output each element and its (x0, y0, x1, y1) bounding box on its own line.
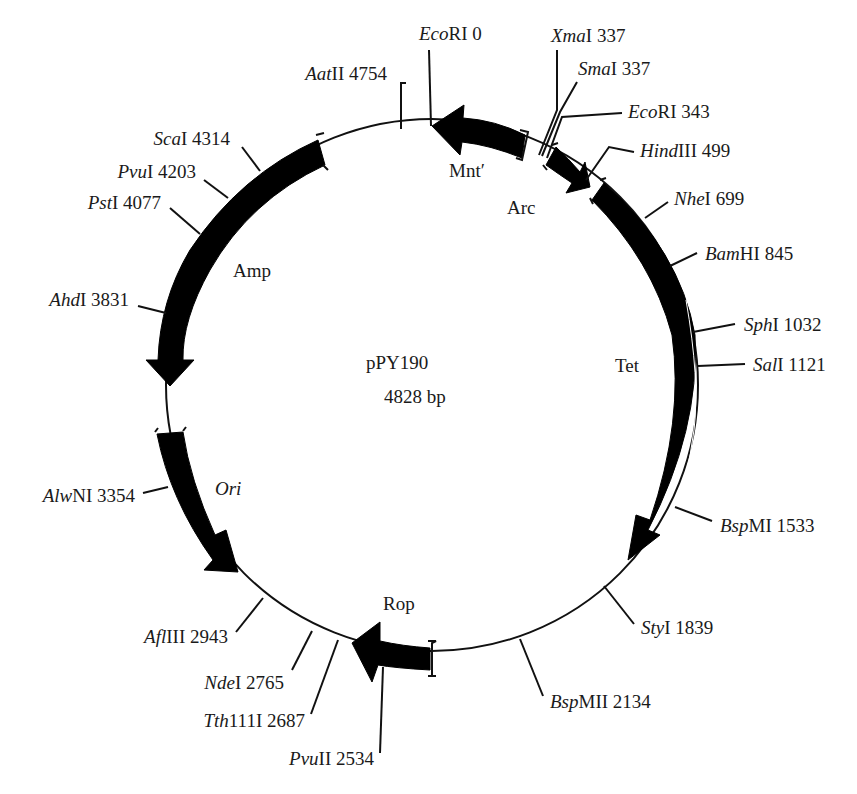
site-label-ahdi-3831: AhdI 3831 (47, 289, 129, 310)
site-label-hindiii-499: HindIII 499 (639, 140, 730, 161)
gene-label-ori: Ori (215, 478, 241, 499)
plasmid-name: pPY190 (366, 352, 428, 373)
site-label-bspmi-1533: BspMI 1533 (720, 515, 814, 536)
gene-label-tet: Tet (615, 355, 640, 376)
gene-arrow-ori (155, 427, 238, 572)
site-label-afliii-2943: AflIII 2943 (142, 626, 228, 647)
gene-arrow-tet (590, 178, 696, 560)
site-label-scai-4314: ScaI 4314 (153, 128, 230, 149)
site-label-psti-4077: PstI 4077 (87, 192, 161, 213)
site-label-bamhi-845: BamHI 845 (705, 243, 793, 264)
site-label-pvuii-2534: PvuII 2534 (288, 748, 374, 769)
site-label-aatii-4754: AatII 4754 (303, 63, 387, 84)
site-label-ecori-0: EcoRI 0 (418, 23, 482, 44)
gene-label-mnt: Mnt′ (449, 160, 485, 181)
site-label-alwni-3354: AlwNI 3354 (41, 485, 136, 506)
site-label-ecori-343: EcoRI 343 (627, 101, 710, 122)
site-label-xmai-337: XmaI 337 (550, 25, 625, 46)
gene-arrow-mnt (432, 105, 528, 160)
site-label-nhei-699: NheI 699 (673, 188, 744, 209)
site-label-tth111i-2687: Tth111I 2687 (203, 710, 305, 731)
gene-label-rop: Rop (383, 593, 415, 614)
gene-label-arc: Arc (507, 197, 535, 218)
gene-arrow-rop (352, 622, 436, 682)
site-label-sphi-1032: SphI 1032 (744, 314, 822, 335)
site-label-ndei-2765: NdeI 2765 (203, 672, 284, 693)
plasmid-map: pPY190 4828 bp Mnt′ Arc Tet Rop Ori Amp … (0, 0, 857, 794)
site-label-smai-337: SmaI 337 (578, 58, 650, 79)
plasmid-size: 4828 bp (384, 386, 446, 407)
gene-label-amp: Amp (233, 260, 271, 281)
site-label-pvui-4203: PvuI 4203 (116, 161, 196, 182)
site-label-styi-1839: StyI 1839 (641, 617, 713, 638)
site-label-bspmii-2134: BspMII 2134 (550, 691, 651, 712)
site-label-sali-1121: SalI 1121 (753, 354, 826, 375)
